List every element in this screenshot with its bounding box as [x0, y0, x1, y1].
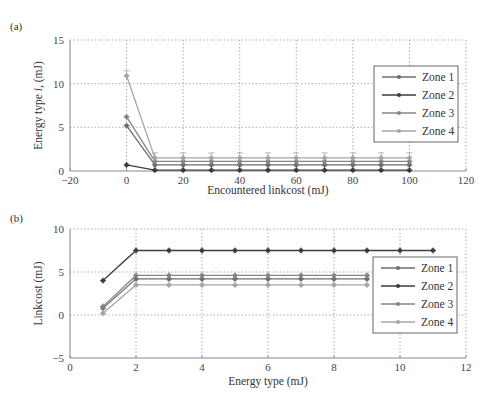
x-tick-label: 8 [331, 361, 337, 373]
x-tick-label: 10 [395, 361, 407, 373]
x-tick-label: −20 [61, 174, 79, 186]
legend: Zone 1Zone 2Zone 3Zone 4 [373, 257, 457, 333]
y-tick-label: 5 [59, 121, 65, 133]
y-axis-label: Energy type i, (mJ) [32, 61, 45, 150]
x-axis-label: Energy type (mJ) [228, 375, 308, 388]
legend-label: Zone 3 [421, 298, 454, 310]
y-tick-label: −5 [52, 352, 64, 364]
x-tick-label: 80 [347, 174, 359, 186]
y-tick-label: 0 [59, 165, 65, 177]
chart-a: −20020406080100120051015Encountered link… [32, 34, 475, 197]
x-tick-label: 120 [458, 174, 475, 186]
legend-label: Zone 3 [422, 107, 455, 119]
x-tick-label: 0 [124, 174, 130, 186]
x-tick-label: 12 [461, 361, 472, 373]
chart-b: 024681012−50510Energy type (mJ)Linkcost … [32, 223, 472, 388]
series-zone-1 [100, 276, 370, 311]
y-tick-label: 5 [59, 266, 65, 278]
x-tick-label: 100 [401, 174, 418, 186]
x-tick-label: 4 [199, 361, 205, 373]
x-axis-label: Encountered linkcost (mJ) [207, 184, 329, 197]
legend: Zone 1Zone 2Zone 3Zone 4 [374, 66, 458, 142]
y-tick-label: 10 [53, 78, 65, 90]
legend-label: Zone 4 [421, 316, 454, 328]
series-zone-4 [124, 71, 413, 161]
legend-label: Zone 1 [421, 262, 454, 274]
legend-label: Zone 2 [421, 280, 454, 292]
y-tick-label: 15 [53, 34, 65, 46]
x-tick-label: 2 [133, 361, 139, 373]
series-zone-4 [100, 282, 370, 316]
x-tick-label: 0 [67, 361, 73, 373]
figure-canvas: −20020406080100120051015Encountered link… [0, 0, 494, 407]
legend-label: Zone 1 [422, 71, 455, 83]
y-tick-label: 0 [59, 309, 65, 321]
x-tick-label: 6 [265, 361, 271, 373]
y-tick-label: 10 [53, 223, 65, 235]
x-tick-label: 20 [178, 174, 190, 186]
series-zone-3 [100, 272, 370, 309]
legend-label: Zone 2 [422, 89, 455, 101]
y-axis-label: Linkcost (mJ) [32, 261, 45, 325]
legend-label: Zone 4 [422, 125, 455, 137]
